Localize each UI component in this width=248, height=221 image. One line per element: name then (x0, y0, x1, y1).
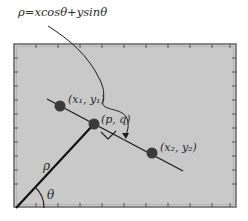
hough-transform-diagram: ρ=xcosθ+ysinθ (x₁, y₁) (p, q) (x₂, y₂) ρ… (0, 0, 248, 221)
label-p-q: (p, q) (101, 113, 131, 126)
point-x1-y1 (55, 101, 66, 112)
label-theta: θ (47, 188, 55, 202)
label-rho: ρ (42, 159, 50, 173)
point-x2-y2 (147, 148, 158, 159)
point-p-q (89, 119, 100, 130)
equation-label: ρ=xcosθ+ysinθ (17, 5, 107, 19)
label-x2-y2: (x₂, y₂) (160, 141, 197, 154)
label-x1-y1: (x₁, y₁) (68, 93, 105, 106)
